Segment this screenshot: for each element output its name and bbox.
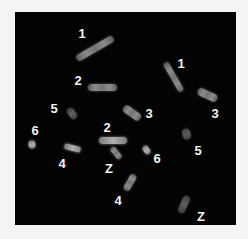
chromosome-label-1: 1 (177, 57, 184, 70)
chromosome-2b (99, 137, 127, 144)
chromosome-label-2: 2 (74, 74, 81, 87)
chromosome-2a (88, 84, 117, 91)
chromosome-3b (196, 87, 218, 103)
chromosome-label-4: 4 (58, 157, 65, 170)
chromosome-label-z: Z (105, 162, 113, 175)
chromosome-6b (141, 145, 151, 156)
chromosome-5b (181, 128, 192, 141)
chromosome-z2 (177, 194, 191, 213)
chromosome-6a (28, 139, 36, 148)
chromosome-5a (66, 106, 79, 120)
chromosome-3a (122, 104, 143, 122)
chromosome-label-z: Z (197, 210, 205, 223)
micrograph-panel: 1 2 1 3 5 3 6 2 5 4 Z 6 4 Z (15, 12, 236, 225)
chromosome-label-5: 5 (194, 144, 201, 157)
chromosome-label-5: 5 (50, 102, 57, 115)
chromosome-figure: 1 2 1 3 5 3 6 2 5 4 Z 6 4 Z (0, 0, 248, 239)
chromosome-label-1: 1 (78, 27, 85, 40)
chromosome-z1 (109, 146, 123, 161)
chromosome-label-6: 6 (31, 124, 38, 137)
chromosome-label-3: 3 (145, 107, 152, 120)
chromosome-label-6: 6 (153, 152, 160, 165)
chromosome-label-4: 4 (114, 194, 121, 207)
chromosome-4b (122, 172, 137, 191)
chromosome-4a (63, 143, 81, 153)
chromosome-label-2: 2 (103, 121, 110, 134)
chromosome-label-3: 3 (211, 107, 218, 120)
